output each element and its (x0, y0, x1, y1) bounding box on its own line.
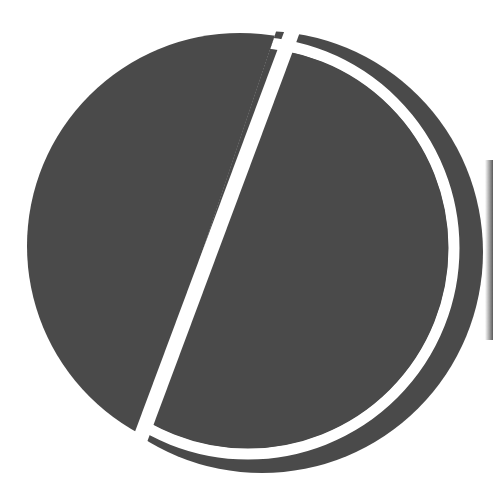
circle-slash-mark-icon (0, 0, 493, 502)
page-edge-shadow (485, 160, 493, 340)
logo-graphic: circle-slash mark (0, 0, 493, 502)
